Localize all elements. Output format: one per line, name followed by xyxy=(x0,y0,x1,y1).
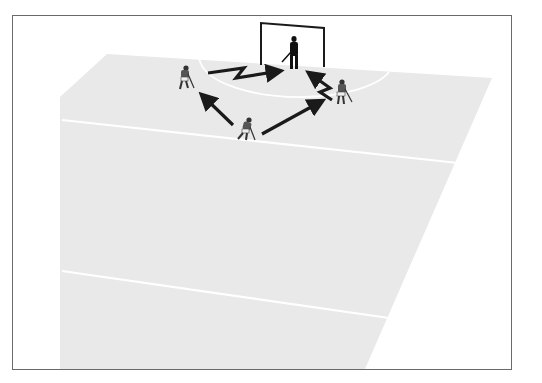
goalkeeper xyxy=(282,36,298,69)
pitch-surface xyxy=(60,54,492,369)
hockey-drill-diagram xyxy=(0,0,542,383)
